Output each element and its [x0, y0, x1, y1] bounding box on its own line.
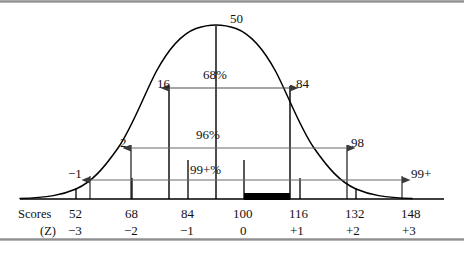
z-tick-2: −1: [180, 224, 194, 237]
score-tick-0: 52: [69, 207, 82, 220]
percentile-label-plus-2sd: 98: [351, 136, 364, 149]
score-tick-2: 84: [181, 207, 194, 220]
percentile-label-minus-1sd: 16: [157, 77, 170, 90]
scores-row-label: Scores: [18, 208, 51, 221]
percentile-label-minus-2sd: 2: [120, 136, 127, 149]
score-tick-5: 132: [345, 207, 365, 220]
z-tick-1: −2: [124, 224, 138, 237]
score-tick-3: 100: [233, 207, 253, 220]
z-tick-3: 0: [240, 224, 247, 237]
z-tick-4: +1: [290, 224, 304, 237]
score-tick-6: 148: [401, 207, 421, 220]
normal-distribution-figure: 50 16 84 2 98 −1 99+ 68% 96% 99+% Scores…: [0, 0, 464, 254]
score-tick-1: 68: [125, 207, 138, 220]
span-label-68: 68%: [203, 68, 227, 81]
percentile-label-plus-1sd: 84: [296, 77, 309, 90]
z-row-label: (Z): [40, 225, 56, 238]
percentile-label-minus-3sd: −1: [68, 167, 82, 180]
z-tick-6: +3: [402, 224, 416, 237]
percentile-label-plus-3sd: 99+: [411, 167, 431, 180]
score-tick-4: 116: [289, 207, 308, 220]
z-tick-0: −3: [68, 224, 82, 237]
span-label-96: 96%: [196, 128, 220, 141]
highlight-band: [244, 193, 290, 200]
z-tick-5: +2: [346, 224, 360, 237]
span-label-99: 99+%: [190, 163, 221, 176]
percentile-label-peak: 50: [230, 12, 243, 25]
